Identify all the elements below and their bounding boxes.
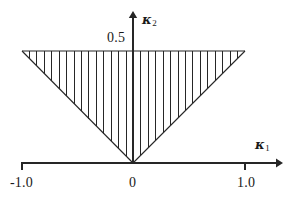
kappa-glyph-x: κ <box>255 137 265 152</box>
y-axis-title: κ2 <box>142 13 157 28</box>
figure-container: 0.5 κ2 κ1 -1.0 0 1.0 <box>0 0 293 205</box>
y-axis <box>129 11 137 163</box>
x-axis-tick-label-plus-one: 1.0 <box>237 176 255 190</box>
region-edge-right <box>133 51 245 163</box>
region-edge-left <box>22 51 133 163</box>
x-axis-title-subscript: 1 <box>265 143 270 153</box>
y-axis-tick-label-0-5: 0.5 <box>107 31 125 45</box>
y-axis-arrow-icon <box>129 11 137 18</box>
x-axis <box>21 159 283 170</box>
x-axis-tick-label-zero: 0 <box>129 176 136 190</box>
x-axis-arrow-icon <box>276 159 283 168</box>
x-axis-tick-label-minus-one: -1.0 <box>10 176 33 190</box>
x-axis-title: κ1 <box>255 138 270 153</box>
kappa-glyph-y: κ <box>142 12 152 27</box>
y-axis-title-subscript: 2 <box>152 18 157 28</box>
